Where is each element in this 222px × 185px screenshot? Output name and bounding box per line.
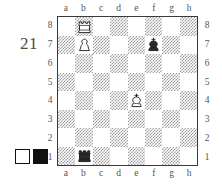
board-square-h4[interactable] — [180, 91, 197, 110]
board-square-f6[interactable] — [145, 54, 162, 73]
board-square-a7[interactable] — [58, 36, 75, 55]
board-square-b5[interactable] — [75, 73, 92, 92]
black-king-f7 — [145, 36, 162, 55]
board-square-h7[interactable] — [180, 36, 197, 55]
file-label-c-top: c — [92, 3, 110, 13]
board-square-f3[interactable] — [145, 110, 162, 129]
rank-label-2-left: 2 — [45, 133, 55, 143]
board-square-c7[interactable] — [93, 36, 110, 55]
file-label-d-top: d — [110, 3, 128, 13]
rank-label-1-right: 1 — [202, 152, 212, 162]
board-square-e1[interactable] — [128, 147, 145, 166]
board-square-a1[interactable] — [58, 147, 75, 166]
board-square-c8[interactable] — [93, 17, 110, 36]
rank-label-1-left: 1 — [45, 152, 55, 162]
board-square-b2[interactable] — [75, 128, 92, 147]
rank-label-3-right: 3 — [202, 114, 212, 124]
side-to-move-legend — [15, 149, 48, 164]
white-rook-b8 — [75, 17, 92, 36]
board-square-e2[interactable] — [128, 128, 145, 147]
rank-label-6-left: 6 — [45, 58, 55, 68]
board-square-g1[interactable] — [162, 147, 179, 166]
board-square-d4[interactable] — [110, 91, 127, 110]
board-square-f1[interactable] — [145, 147, 162, 166]
board-square-h5[interactable] — [180, 73, 197, 92]
rank-label-7-right: 7 — [202, 39, 212, 49]
board-square-b8[interactable] — [75, 17, 92, 36]
rank-label-8-left: 8 — [45, 20, 55, 30]
board-square-e4[interactable] — [128, 91, 145, 110]
board-square-c1[interactable] — [93, 147, 110, 166]
board-square-e5[interactable] — [128, 73, 145, 92]
board-square-a5[interactable] — [58, 73, 75, 92]
rank-label-5-left: 5 — [45, 77, 55, 87]
board-square-c5[interactable] — [93, 73, 110, 92]
rank-label-6-right: 6 — [202, 58, 212, 68]
rank-label-7-left: 7 — [45, 39, 55, 49]
board-square-b6[interactable] — [75, 54, 92, 73]
board-square-e6[interactable] — [128, 54, 145, 73]
board-square-g4[interactable] — [162, 91, 179, 110]
board-square-b3[interactable] — [75, 110, 92, 129]
board-square-a8[interactable] — [58, 17, 75, 36]
board-square-c2[interactable] — [93, 128, 110, 147]
board-square-h1[interactable] — [180, 147, 197, 166]
file-label-g-bottom: g — [163, 168, 181, 178]
board-square-h6[interactable] — [180, 54, 197, 73]
white-pawn-b7 — [75, 36, 92, 55]
board-square-d7[interactable] — [110, 36, 127, 55]
black-rook-b1 — [75, 147, 92, 166]
file-label-d-bottom: d — [110, 168, 128, 178]
file-label-h-bottom: h — [180, 168, 198, 178]
rank-label-8-right: 8 — [202, 20, 212, 30]
board-square-h8[interactable] — [180, 17, 197, 36]
board-square-e3[interactable] — [128, 110, 145, 129]
file-label-b-top: b — [75, 3, 93, 13]
board-square-c4[interactable] — [93, 91, 110, 110]
board-square-c3[interactable] — [93, 110, 110, 129]
chess-board — [57, 16, 198, 166]
board-square-a2[interactable] — [58, 128, 75, 147]
board-square-d1[interactable] — [110, 147, 127, 166]
board-square-b7[interactable] — [75, 36, 92, 55]
board-square-d3[interactable] — [110, 110, 127, 129]
board-square-d6[interactable] — [110, 54, 127, 73]
board-square-h2[interactable] — [180, 128, 197, 147]
rank-label-2-right: 2 — [202, 133, 212, 143]
diagram-number: 21 — [10, 34, 48, 54]
board-square-e7[interactable] — [128, 36, 145, 55]
board-square-d5[interactable] — [110, 73, 127, 92]
board-square-a3[interactable] — [58, 110, 75, 129]
board-grid — [58, 17, 197, 165]
board-square-h3[interactable] — [180, 110, 197, 129]
rank-label-4-left: 4 — [45, 95, 55, 105]
rank-label-4-right: 4 — [202, 95, 212, 105]
board-square-g2[interactable] — [162, 128, 179, 147]
board-square-c6[interactable] — [93, 54, 110, 73]
board-square-d2[interactable] — [110, 128, 127, 147]
board-square-f5[interactable] — [145, 73, 162, 92]
board-square-f7[interactable] — [145, 36, 162, 55]
board-square-g7[interactable] — [162, 36, 179, 55]
board-square-g3[interactable] — [162, 110, 179, 129]
file-label-c-bottom: c — [92, 168, 110, 178]
board-square-d8[interactable] — [110, 17, 127, 36]
file-label-b-bottom: b — [75, 168, 93, 178]
board-square-f8[interactable] — [145, 17, 162, 36]
file-label-h-top: h — [180, 3, 198, 13]
rank-label-3-left: 3 — [45, 114, 55, 124]
board-square-f4[interactable] — [145, 91, 162, 110]
board-square-b1[interactable] — [75, 147, 92, 166]
board-square-g8[interactable] — [162, 17, 179, 36]
board-square-f2[interactable] — [145, 128, 162, 147]
board-square-b4[interactable] — [75, 91, 92, 110]
board-square-a6[interactable] — [58, 54, 75, 73]
file-label-f-bottom: f — [145, 168, 163, 178]
board-square-g6[interactable] — [162, 54, 179, 73]
file-label-a-top: a — [57, 3, 75, 13]
board-square-e8[interactable] — [128, 17, 145, 36]
file-label-e-bottom: e — [128, 168, 146, 178]
chess-diagram: 21 abcdefgh abcdefgh 87654321 87654321 — [0, 0, 222, 185]
board-square-g5[interactable] — [162, 73, 179, 92]
board-square-a4[interactable] — [58, 91, 75, 110]
